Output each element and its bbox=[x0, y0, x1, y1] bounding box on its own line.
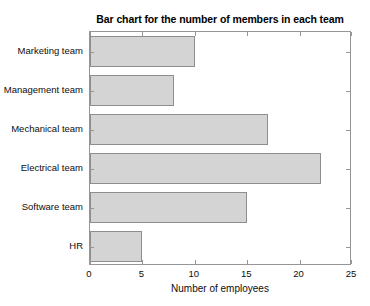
y-tick-mark bbox=[90, 52, 94, 53]
x-axis-tick-label: 0 bbox=[86, 268, 91, 279]
y-tick-mark bbox=[90, 130, 94, 131]
x-tick-mark bbox=[195, 260, 196, 264]
bar-slot bbox=[90, 110, 350, 149]
bar-slot bbox=[90, 188, 350, 227]
y-axis-tick-label: Mechanical team bbox=[0, 123, 83, 134]
bar-slot bbox=[90, 32, 350, 71]
y-tick-mark bbox=[90, 91, 94, 92]
y-tick-mark bbox=[90, 208, 94, 209]
y-tick-mark bbox=[346, 52, 350, 53]
bar-slot bbox=[90, 71, 350, 110]
x-tick-mark bbox=[195, 32, 196, 36]
y-tick-mark bbox=[90, 169, 94, 170]
bar[interactable] bbox=[90, 36, 195, 66]
y-axis-tick-label: Marketing team bbox=[0, 45, 83, 56]
x-tick-mark bbox=[300, 260, 301, 264]
x-axis-tick-label: 5 bbox=[139, 268, 144, 279]
chart-title: Bar chart for the number of members in e… bbox=[89, 13, 351, 25]
bar-slot bbox=[90, 149, 350, 188]
y-axis-tick-label: Software team bbox=[0, 201, 83, 212]
y-axis-tick-label: Management team bbox=[0, 84, 83, 95]
y-tick-mark bbox=[346, 247, 350, 248]
x-axis-label: Number of employees bbox=[89, 283, 351, 294]
y-tick-mark bbox=[346, 208, 350, 209]
y-tick-mark bbox=[346, 130, 350, 131]
plot-area bbox=[89, 31, 351, 265]
bar[interactable] bbox=[90, 192, 247, 222]
x-tick-mark bbox=[247, 260, 248, 264]
x-tick-mark bbox=[247, 32, 248, 36]
bar-chart-figure: Bar chart for the number of members in e… bbox=[0, 0, 370, 306]
x-tick-mark bbox=[300, 32, 301, 36]
x-tick-mark bbox=[351, 260, 352, 264]
bar[interactable] bbox=[90, 114, 268, 144]
x-axis-tick-label: 15 bbox=[241, 268, 252, 279]
bar[interactable] bbox=[90, 153, 321, 183]
y-tick-mark bbox=[90, 247, 94, 248]
x-axis-tick-label: 20 bbox=[293, 268, 304, 279]
bars-layer bbox=[90, 32, 350, 264]
y-tick-mark bbox=[346, 169, 350, 170]
x-axis-tick-label: 25 bbox=[346, 268, 357, 279]
bar-slot bbox=[90, 227, 350, 266]
x-tick-mark bbox=[142, 260, 143, 264]
bar[interactable] bbox=[90, 75, 174, 105]
bar[interactable] bbox=[90, 231, 142, 261]
y-tick-mark bbox=[346, 91, 350, 92]
x-tick-mark bbox=[90, 32, 91, 36]
x-tick-mark bbox=[90, 260, 91, 264]
x-axis-tick-label: 10 bbox=[189, 268, 200, 279]
x-tick-mark bbox=[351, 32, 352, 36]
x-tick-mark bbox=[142, 32, 143, 36]
y-axis-tick-label: HR bbox=[0, 240, 83, 251]
y-axis-tick-label: Electrical team bbox=[0, 162, 83, 173]
